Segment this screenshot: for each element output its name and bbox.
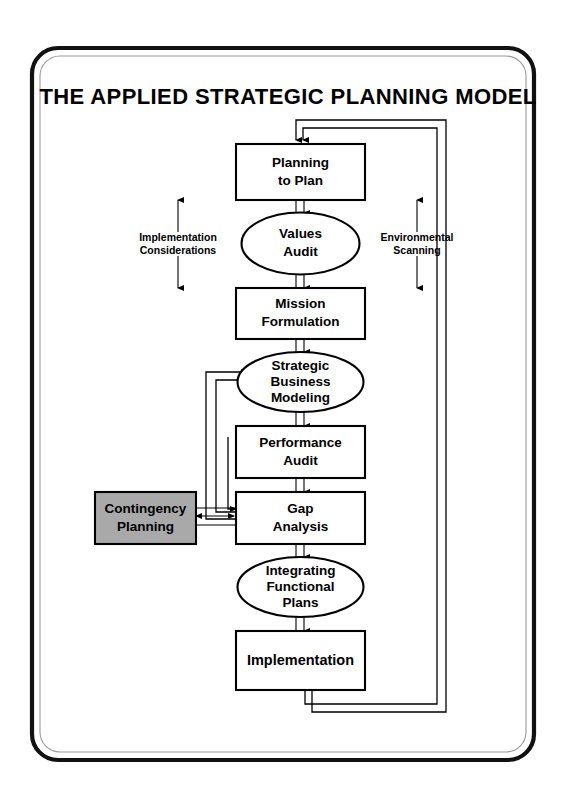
- page-title: THE APPLIED STRATEGIC PLANNING MODEL: [39, 84, 536, 109]
- node-values-audit-label-1: Values: [279, 226, 322, 241]
- node-performance-audit-label-1: Performance: [259, 435, 342, 450]
- node-mission-formulation[interactable]: Mission Formulation: [236, 288, 365, 339]
- node-performance-audit[interactable]: Performance Audit: [236, 426, 365, 478]
- node-gap-analysis[interactable]: Gap Analysis: [236, 492, 365, 544]
- node-contingency-planning-label-1: Contingency: [105, 501, 187, 516]
- node-strategic-business-modeling-label-3: Modeling: [271, 390, 330, 405]
- node-integrating-functional-plans-label-3: Plans: [282, 595, 318, 610]
- side-label-environmental-scanning-line-1: Environmental: [381, 231, 454, 243]
- node-integrating-functional-plans-label-1: Integrating: [266, 563, 336, 578]
- node-mission-formulation-label-1: Mission: [275, 296, 325, 311]
- node-values-audit[interactable]: Values Audit: [242, 213, 360, 275]
- side-label-implementation-considerations-line-2: Considerations: [140, 244, 217, 256]
- node-gap-analysis-label-2: Analysis: [273, 519, 329, 534]
- node-mission-formulation-label-2: Formulation: [262, 314, 340, 329]
- node-implementation-label-1: Implementation: [247, 652, 354, 668]
- side-label-implementation-considerations: Implementation Considerations: [139, 231, 217, 256]
- node-gap-analysis-label-1: Gap: [287, 501, 313, 516]
- node-strategic-business-modeling-label-1: Strategic: [272, 358, 330, 373]
- node-contingency-planning[interactable]: Contingency Planning: [95, 492, 196, 544]
- node-values-audit-label-2: Audit: [283, 244, 318, 259]
- diagram-page: THE APPLIED STRATEGIC PLANNING MODEL: [0, 0, 571, 798]
- node-implementation[interactable]: Implementation: [236, 631, 365, 690]
- node-planning-to-plan-label-2: to Plan: [278, 173, 323, 188]
- node-strategic-business-modeling[interactable]: Strategic Business Modeling: [238, 352, 364, 412]
- node-integrating-functional-plans-label-2: Functional: [266, 579, 334, 594]
- strategic-planning-model-diagram: THE APPLIED STRATEGIC PLANNING MODEL: [0, 0, 571, 798]
- node-performance-audit-label-2: Audit: [283, 453, 318, 468]
- node-planning-to-plan-label-1: Planning: [272, 155, 329, 170]
- node-integrating-functional-plans[interactable]: Integrating Functional Plans: [238, 557, 364, 617]
- side-label-implementation-considerations-line-1: Implementation: [139, 231, 217, 243]
- node-contingency-planning-label-2: Planning: [117, 519, 174, 534]
- node-planning-to-plan[interactable]: Planning to Plan: [236, 144, 365, 200]
- node-strategic-business-modeling-label-2: Business: [270, 374, 330, 389]
- side-label-environmental-scanning-line-2: Scanning: [393, 244, 440, 256]
